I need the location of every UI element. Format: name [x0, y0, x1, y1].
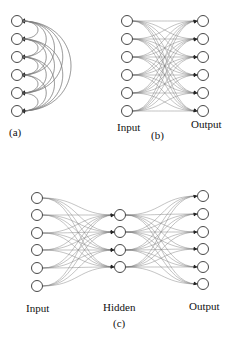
recurrent-edge [22, 39, 63, 111]
neuron-node [12, 34, 23, 45]
output-node [198, 209, 209, 220]
input-node [122, 88, 133, 99]
recurrent-edge [22, 21, 63, 93]
connection-edge [43, 232, 115, 250]
neuron-node [12, 88, 23, 99]
connection-edge [43, 215, 115, 268]
input-node [122, 106, 133, 117]
neuron-node [12, 70, 23, 81]
neuron-node [12, 52, 23, 63]
neuron-node [12, 106, 23, 117]
connection-edge [126, 196, 198, 215]
input-node [122, 52, 133, 63]
recurrent-edge [22, 39, 63, 111]
output-node [198, 70, 209, 81]
hidden-node [115, 245, 126, 256]
input-node [32, 281, 43, 292]
hidden-node [115, 210, 126, 221]
connection-edge [133, 57, 198, 111]
output-node [198, 262, 209, 273]
output-node [198, 191, 209, 202]
panel-b-caption: (b) [151, 129, 164, 142]
connection-edge [126, 196, 198, 250]
output-node [198, 52, 209, 63]
connection-edge [126, 214, 198, 267]
panel-c-hidden-label: Hidden [103, 301, 136, 313]
input-node [32, 228, 43, 239]
neural-network-diagram: (a) Input Output (b) Input Hidden Output… [0, 0, 244, 339]
panel-c-caption: (c) [113, 317, 126, 330]
output-node [198, 227, 209, 238]
output-node [198, 279, 209, 290]
recurrent-edge [22, 21, 72, 111]
input-node [32, 193, 43, 204]
panel-b-input-label: Input [117, 121, 140, 133]
output-node [198, 88, 209, 99]
neuron-node [12, 16, 23, 27]
connection-edge [126, 232, 198, 250]
input-node [122, 16, 133, 27]
connection-edge [43, 267, 115, 286]
panel-a-recurrent-network [12, 16, 72, 117]
connection-edge [43, 232, 115, 286]
connection-edge [133, 21, 198, 111]
recurrent-edge [22, 21, 72, 111]
panel-c-input-label: Input [26, 302, 49, 314]
hidden-node [115, 262, 126, 273]
hidden-node [115, 227, 126, 238]
panel-c-output-label: Output [189, 300, 220, 312]
output-node [198, 244, 209, 255]
panel-b-two-layer-network [122, 16, 209, 117]
input-node [32, 245, 43, 256]
panel-b-output-label: Output [191, 118, 222, 130]
output-node [198, 16, 209, 27]
panel-a-caption: (a) [9, 126, 22, 139]
recurrent-edge [22, 21, 63, 93]
input-node [32, 210, 43, 221]
input-node [32, 263, 43, 274]
input-node [122, 70, 133, 81]
arrowhead-icon [193, 39, 197, 42]
input-node [122, 34, 133, 45]
connection-edge [133, 21, 198, 75]
panel-c-three-layer-network [32, 191, 209, 292]
output-node [198, 34, 209, 45]
output-node [198, 106, 209, 117]
